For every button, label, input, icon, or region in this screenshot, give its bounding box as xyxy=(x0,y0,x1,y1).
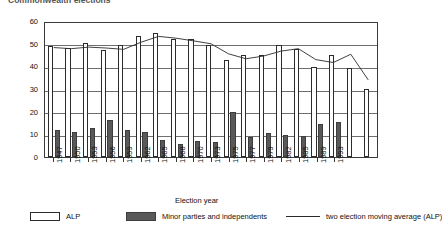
x-axis-tick-label: 1956 xyxy=(109,146,117,163)
legend-swatch-alp xyxy=(30,212,60,221)
x-axis-tick xyxy=(281,158,282,162)
x-axis-tick xyxy=(88,158,89,162)
page-title: Commonwealth elections xyxy=(8,0,258,4)
legend-item-minor: Minor parties and independents xyxy=(126,210,267,222)
x-axis-tick-label: 1975 xyxy=(232,146,240,163)
moving-average-line xyxy=(45,23,377,157)
x-axis-tick-label: 1968 xyxy=(179,146,187,163)
x-axis-tick xyxy=(123,158,124,162)
x-axis-label: Election year xyxy=(175,196,218,205)
y-axis-tick-label: 10 xyxy=(0,131,38,139)
x-axis-tick-label: 1973 xyxy=(214,146,222,163)
x-axis-tick-label: 1970 xyxy=(197,146,205,163)
legend-label-minor: Minor parties and independents xyxy=(162,212,267,221)
x-axis-tick-label: 1982 xyxy=(285,146,293,163)
x-axis-tick-label: 1985 xyxy=(302,146,310,163)
x-axis-tick xyxy=(299,158,300,162)
legend-swatch-minor xyxy=(126,212,156,221)
x-axis-tick xyxy=(141,158,142,162)
y-axis-tick-label: 50 xyxy=(0,41,38,49)
x-axis-tick-label: 1993 xyxy=(337,146,345,163)
y-axis-tick-label: 30 xyxy=(0,86,38,94)
x-axis-tick-label: 1965 xyxy=(161,146,169,163)
x-axis-tick-label: 1977 xyxy=(249,146,257,163)
x-axis-tick xyxy=(334,158,335,162)
x-axis-tick xyxy=(193,158,194,162)
x-axis-tick xyxy=(211,158,212,162)
x-axis-tick xyxy=(176,158,177,162)
legend-label-alp: ALP xyxy=(66,212,80,221)
x-axis-tick xyxy=(106,158,107,162)
x-axis-tick-label: 1950 xyxy=(74,146,82,163)
x-axis-tick-label: 1989 xyxy=(320,146,328,163)
x-axis-tick-label: 1953 xyxy=(91,146,99,163)
x-axis-tick xyxy=(317,158,318,162)
legend-label-moving-average: two election moving average (ALP) xyxy=(326,212,442,221)
legend-item-alp: ALP xyxy=(30,210,80,222)
x-axis-tick xyxy=(229,158,230,162)
x-axis-tick xyxy=(70,158,71,162)
y-axis-tick-label: 40 xyxy=(0,63,38,71)
legend-item-moving-average: two election moving average (ALP) xyxy=(286,210,442,222)
legend-swatch-line xyxy=(286,216,320,217)
x-axis-tick xyxy=(264,158,265,162)
chart-title-clipped: Commonwealth elections xyxy=(8,0,258,4)
y-axis-tick-label: 60 xyxy=(0,18,38,26)
x-axis-tick-label: 1979 xyxy=(267,146,275,163)
plot-area xyxy=(44,22,378,158)
y-axis-tick-label: 20 xyxy=(0,109,38,117)
x-axis-tick-label: 1962 xyxy=(144,146,152,163)
x-axis-tick xyxy=(53,158,54,162)
y-axis-tick-label: 0 xyxy=(0,154,38,162)
x-axis-tick-label: 1947 xyxy=(56,146,64,163)
x-axis-tick-label: 1959 xyxy=(126,146,134,163)
